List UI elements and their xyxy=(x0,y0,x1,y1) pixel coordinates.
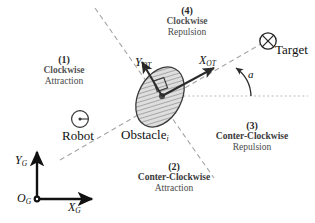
region-1-line1: Clockwise xyxy=(22,65,106,76)
region-3-counterclockwise-repulsion: (3) Conter-Clockwise Repulsion xyxy=(190,120,314,152)
obstacle-label-text: Obstacle xyxy=(121,127,166,142)
local-y-axis-symbol: Y xyxy=(135,55,142,69)
region-1-clockwise-attraction: (1) Clockwise Attraction xyxy=(22,54,106,86)
global-y-axis-symbol: Y xyxy=(15,153,22,167)
local-y-axis-subscript: OT xyxy=(142,61,152,70)
region-3-number: (3) xyxy=(190,120,314,131)
global-x-axis-subscript: G xyxy=(75,206,80,215)
region-3-line1: Conter-Clockwise xyxy=(190,131,314,142)
angle-alpha-label: a xyxy=(248,69,254,81)
region-1-line2: Attraction xyxy=(22,76,106,87)
region-3-line2: Repulsion xyxy=(190,142,314,153)
global-origin-symbol: O xyxy=(17,191,26,205)
robot-label: Robot xyxy=(62,129,94,143)
obstacle-label: Obstaclei xyxy=(121,128,169,144)
global-y-axis-subscript: G xyxy=(22,159,27,168)
robot-icon xyxy=(72,111,89,128)
local-y-axis-label: YOT xyxy=(135,56,151,70)
target-label: Target xyxy=(275,43,308,57)
region-2-counterclockwise-attraction: (2) Conter-Clockwise Attraction xyxy=(110,161,238,193)
global-y-axis-label: YG xyxy=(15,154,27,168)
global-origin-label: OG xyxy=(17,192,31,206)
region-2-line1: Conter-Clockwise xyxy=(110,172,238,183)
global-origin-subscript: G xyxy=(26,197,31,206)
global-frame-axes xyxy=(34,152,92,202)
region-2-line2: Attraction xyxy=(110,183,238,194)
region-4-clockwise-repulsion: (4) Clockwise Repulsion xyxy=(140,5,234,37)
region-1-number: (1) xyxy=(22,54,106,65)
target-crossed-circle-icon xyxy=(260,33,276,49)
global-x-axis-label: XG xyxy=(68,201,81,215)
region-4-line2: Repulsion xyxy=(140,27,234,38)
local-x-axis-subscript: OT xyxy=(206,59,216,68)
figure-canvas: (1) Clockwise Attraction (2) Conter-Cloc… xyxy=(0,0,315,223)
local-x-axis-label: XOT xyxy=(199,54,216,68)
region-4-number: (4) xyxy=(140,5,234,16)
region-2-number: (2) xyxy=(110,161,238,172)
region-4-line1: Clockwise xyxy=(140,16,234,27)
obstacle-label-subscript: i xyxy=(166,134,168,143)
